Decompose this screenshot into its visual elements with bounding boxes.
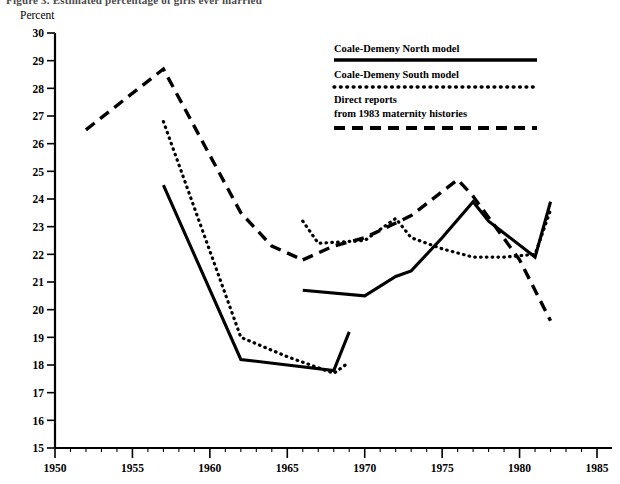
- series-lines: [86, 69, 551, 373]
- y-tick-label: 23: [33, 221, 45, 233]
- y-tick-label: 24: [33, 193, 45, 205]
- y-tick-label: 29: [33, 55, 45, 67]
- series-dotted-segment-2: [303, 210, 551, 257]
- y-tick-label: 28: [33, 83, 45, 95]
- y-tick-label: 22: [33, 249, 45, 261]
- legend-label-2-line2: from 1983 maternity histories: [334, 108, 467, 119]
- chart-plot: 30292827262524232221201918171615 1950195…: [0, 0, 620, 484]
- series-solid-segment-1: [163, 185, 349, 370]
- series-dashed-segment-2: [303, 180, 551, 321]
- x-tick-label: 1975: [431, 462, 454, 474]
- y-tick-label: 21: [33, 276, 45, 288]
- legend-label-0: Coale-Demeny North model: [334, 43, 459, 54]
- y-tick-labels: 30292827262524232221201918171615: [33, 27, 45, 454]
- legend-label-2-line1: Direct reports: [334, 94, 397, 105]
- x-tick-label: 1965: [276, 462, 299, 474]
- series-dashed-segment-1: [86, 69, 303, 260]
- legend-label-1: Coale-Demeny South model: [334, 69, 459, 80]
- x-tick-marks: [55, 448, 597, 458]
- figure-page: Figure 3. Estimated percentage of girls …: [0, 0, 620, 484]
- x-tick-label: 1950: [44, 462, 67, 474]
- series-solid-segment-2: [303, 202, 551, 296]
- x-tick-label: 1985: [586, 462, 609, 474]
- y-tick-label: 20: [33, 304, 45, 316]
- y-tick-label: 26: [33, 138, 45, 150]
- y-tick-label: 16: [33, 415, 45, 427]
- y-tick-label: 15: [33, 442, 45, 454]
- x-tick-label: 1980: [508, 462, 531, 474]
- y-tick-label: 30: [33, 27, 45, 39]
- x-tick-label: 1960: [198, 462, 221, 474]
- x-tick-label: 1970: [353, 462, 376, 474]
- y-tick-label: 17: [33, 387, 45, 399]
- x-tick-label: 1955: [121, 462, 144, 474]
- x-tick-labels: 19501955196019651970197519801985: [44, 462, 609, 474]
- y-tick-label: 19: [33, 332, 45, 344]
- y-tick-label: 27: [33, 110, 45, 122]
- y-tick-label: 25: [33, 166, 45, 178]
- chart-legend: Coale-Demeny North modelCoale-Demeny Sou…: [334, 43, 537, 128]
- y-tick-marks: [47, 33, 55, 448]
- y-tick-label: 18: [33, 359, 45, 371]
